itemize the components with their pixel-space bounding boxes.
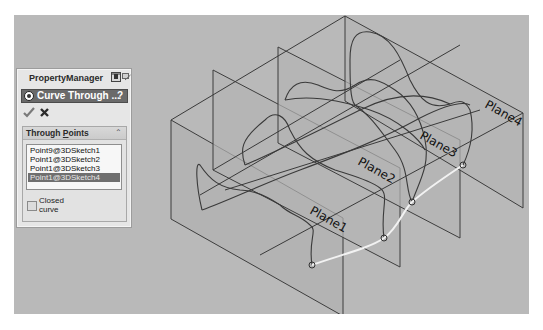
property-manager-header: PropertyManager — [17, 69, 131, 87]
through-points-group-header[interactable]: Through Points ⌃ — [23, 127, 126, 140]
closed-curve-checkbox[interactable] — [27, 201, 37, 211]
pin-icon[interactable] — [111, 72, 121, 82]
help-button[interactable]: ? — [117, 90, 123, 102]
cancel-button[interactable] — [39, 107, 50, 118]
ok-button[interactable] — [23, 107, 35, 118]
property-manager-title: PropertyManager — [29, 73, 103, 83]
feature-title-bar: Curve Through ... ? — [21, 89, 128, 103]
through-points-group: Through Points ⌃ Point9@3DSketch1 Point1… — [22, 126, 127, 222]
feature-title: Curve Through ... — [37, 90, 120, 102]
collapse-chevron-icon[interactable]: ⌃ — [115, 128, 122, 137]
property-manager-panel: PropertyManager Curve Through ... ? Thro… — [16, 68, 132, 228]
list-item[interactable]: Point1@3DSketch2 — [28, 155, 120, 164]
group-title: Through Points — [26, 128, 89, 138]
list-item[interactable]: Point9@3DSketch1 — [28, 146, 120, 155]
curve-through-points-icon — [24, 91, 34, 101]
through-points-list[interactable]: Point9@3DSketch1 Point1@3DSketch2 Point1… — [26, 144, 122, 190]
closed-curve-label[interactable]: Closed curve — [39, 196, 79, 214]
list-item[interactable]: Point1@3DSketch3 — [28, 164, 120, 173]
detach-icon[interactable] — [122, 73, 131, 81]
list-item-selected[interactable]: Point1@3DSketch4 — [28, 173, 120, 182]
